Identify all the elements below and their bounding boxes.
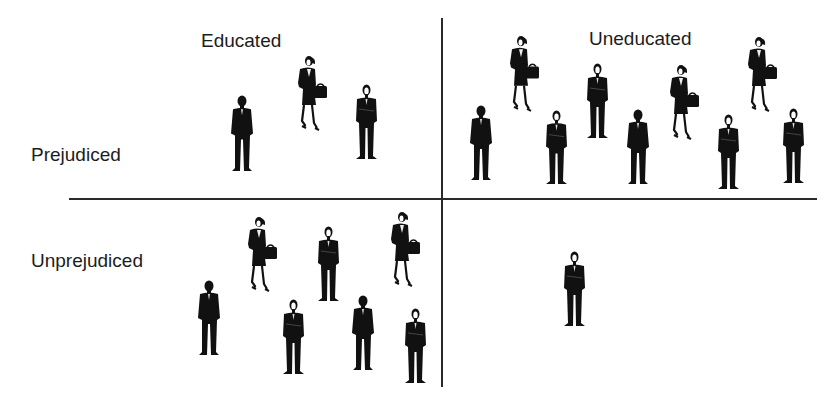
row-label-prejudiced: Prejudiced bbox=[31, 145, 121, 164]
horizontal-axis-divider bbox=[69, 198, 817, 200]
businessman-silhouette-icon bbox=[562, 251, 587, 327]
businesswoman-with-briefcase-icon bbox=[508, 35, 543, 116]
businesswoman-with-briefcase-icon bbox=[296, 55, 331, 135]
row-label-unprejudiced: Unprejudiced bbox=[31, 251, 143, 270]
businessman-silhouette-icon bbox=[350, 295, 376, 371]
businesswoman-with-briefcase-icon bbox=[246, 216, 281, 296]
businessman-silhouette-icon bbox=[281, 299, 306, 375]
businessman-silhouette-icon bbox=[196, 280, 222, 356]
businessman-silhouette-icon bbox=[544, 110, 569, 185]
businessman-silhouette-icon bbox=[781, 108, 806, 184]
businessman-silhouette-icon bbox=[229, 95, 255, 172]
businessman-silhouette-icon bbox=[716, 114, 741, 190]
businesswoman-with-briefcase-icon bbox=[668, 64, 703, 144]
businessman-silhouette-icon bbox=[354, 84, 379, 160]
column-label-educated: Educated bbox=[201, 31, 281, 50]
businessman-silhouette-icon bbox=[468, 105, 494, 181]
businessman-silhouette-icon bbox=[625, 109, 651, 185]
column-label-uneducated: Uneducated bbox=[589, 29, 691, 48]
businesswoman-with-briefcase-icon bbox=[746, 36, 781, 116]
businessman-silhouette-icon bbox=[585, 63, 610, 139]
businessman-silhouette-icon bbox=[316, 226, 341, 302]
businesswoman-with-briefcase-icon bbox=[389, 211, 424, 291]
businessman-silhouette-icon bbox=[403, 308, 428, 384]
vertical-axis-divider bbox=[441, 18, 443, 387]
